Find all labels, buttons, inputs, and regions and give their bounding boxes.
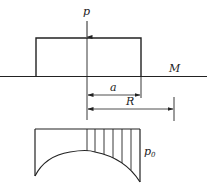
pressure-label: p0 [144, 145, 156, 159]
ground-label: M [168, 62, 181, 75]
pressure-distribution [35, 129, 140, 182]
load-label: p [83, 5, 90, 18]
dim-a-label: a [110, 81, 117, 94]
pressure-curve [35, 151, 140, 183]
foundation-block [36, 38, 141, 76]
diagram-canvas: p M a R p0 [0, 0, 217, 194]
dim-R-label: R [125, 95, 134, 108]
